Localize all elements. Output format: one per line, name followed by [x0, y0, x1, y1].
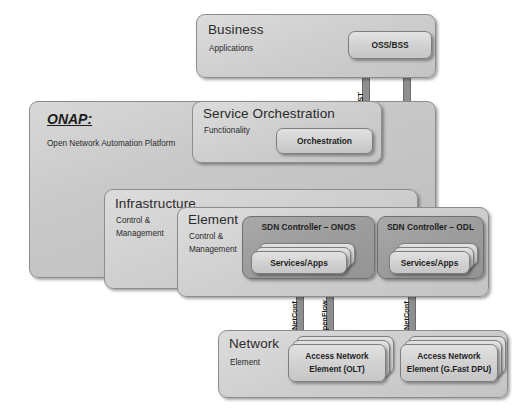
business-title: Business: [208, 22, 264, 37]
access-network-olt-label-1: Access Network: [288, 351, 386, 363]
access-network-dpu-label-2: Element (G.Fast DPU): [398, 364, 500, 376]
service-orchestration-subtitle: Functionality: [204, 125, 250, 136]
onap-title: ONAP:: [47, 111, 92, 127]
access-network-olt-box[interactable]: [288, 344, 386, 382]
connector-label-netconf-1: NetConf: [290, 301, 299, 330]
infrastructure-subtitle-1: Control &: [116, 215, 150, 226]
diagram-canvas: REST REST API REST NetConf OpenFlow: [0, 0, 530, 416]
access-network-dpu-label-1: Access Network: [400, 351, 498, 363]
onap-subtitle: Open Network Automation Platform: [47, 138, 175, 149]
element-subtitle-1: Control &: [189, 231, 223, 242]
business-subtitle: Applications: [209, 43, 253, 54]
services-apps-onos-label: Services/Apps: [251, 258, 347, 268]
network-title: Network: [229, 336, 279, 351]
access-network-dpu-box[interactable]: [400, 344, 498, 382]
connector-label-netconf-2: NetConf: [402, 301, 411, 330]
network-subtitle: Element: [230, 357, 260, 368]
sdn-controller-odl-title: SDN Controller – ODL: [377, 222, 484, 232]
element-title: Element: [188, 212, 238, 227]
sdn-controller-onos-title: SDN Controller – ONOS: [242, 222, 375, 232]
service-orchestration-title: Service Orchestration: [203, 106, 335, 121]
element-subtitle-2: Management: [189, 244, 237, 255]
orchestration-label: Orchestration: [276, 136, 373, 146]
infrastructure-subtitle-2: Management: [116, 228, 164, 239]
services-apps-odl-label: Services/Apps: [389, 258, 470, 268]
access-network-olt-label-2: Element (OLT): [288, 364, 386, 376]
oss-bss-label: OSS/BSS: [348, 40, 432, 50]
